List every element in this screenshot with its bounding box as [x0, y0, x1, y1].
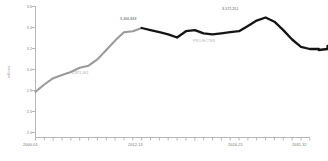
peak-value-label: 3,572,251	[222, 7, 238, 11]
line-chart: millions 3.6 3.4 3.2 3.0 2.8 2.6 2.4 200…	[0, 0, 328, 161]
y-axis-ticks	[32, 7, 36, 133]
series-line-actual	[36, 28, 142, 92]
projected-series-label: PROJECTED	[193, 39, 215, 43]
series-line-projected	[142, 18, 328, 51]
plot-area	[0, 0, 328, 161]
early-value-label: 2,871,161	[72, 71, 88, 75]
junction-value-label: 3,466,848	[120, 17, 136, 21]
